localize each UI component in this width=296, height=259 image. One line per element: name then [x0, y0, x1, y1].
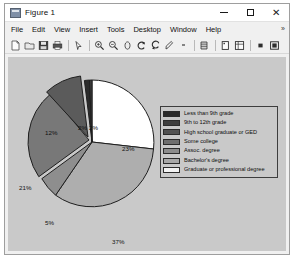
edit-plot-arrow-icon[interactable]: [72, 39, 85, 52]
chart-legend: Less than 9th grade 9th to 12th grade Hi…: [160, 106, 278, 178]
insert-colorbar-icon[interactable]: [198, 39, 211, 52]
legend-item: High school graduate or GED: [163, 128, 275, 137]
menu-item-view[interactable]: View: [54, 25, 70, 34]
window-controls: ✕: [211, 4, 289, 21]
legend-item: Assoc. degree: [163, 147, 275, 156]
pan-icon[interactable]: [121, 39, 134, 52]
legend-swatch-icon: [163, 129, 180, 135]
pie-label-37: 37%: [112, 238, 124, 245]
legend-item: Bachelor's degree: [163, 156, 275, 165]
menu-item-file[interactable]: File: [11, 25, 23, 34]
pie-label-2a: 2%: [78, 124, 87, 131]
show-plot-tools-icon[interactable]: [268, 39, 281, 52]
legend-swatch-icon: [163, 120, 180, 126]
close-button[interactable]: ✕: [263, 4, 289, 21]
minimize-button[interactable]: [211, 4, 237, 21]
new-figure-icon[interactable]: [9, 39, 22, 52]
legend-label: Assoc. degree: [184, 148, 220, 154]
pie-label-5: 5%: [45, 219, 54, 226]
pie-label-23: 23%: [122, 145, 134, 152]
maximize-button[interactable]: [237, 4, 263, 21]
legend-swatch-icon: [163, 167, 180, 173]
legend-label: 9th to 12th grade: [184, 120, 226, 126]
legend-label: Graduate or professional degree: [184, 167, 265, 173]
menu-overflow-icon[interactable]: »: [281, 25, 285, 32]
toolbar-separator: [192, 39, 197, 51]
legend-label: High school graduate or GED: [184, 130, 257, 136]
toolbar-separator: [66, 39, 71, 51]
print-figure-icon[interactable]: [51, 39, 64, 52]
open-file-icon[interactable]: [23, 39, 36, 52]
legend-item: 9th to 12th grade: [163, 118, 275, 127]
legend-label: Some college: [184, 139, 218, 145]
menu-item-help[interactable]: Help: [206, 25, 221, 34]
legend-item: Some college: [163, 137, 275, 146]
title-bar: Figure 1 ✕: [5, 4, 289, 22]
legend-label: Less than 9th grade: [184, 111, 233, 117]
hide-plot-tools-icon[interactable]: [254, 39, 267, 52]
data-cursor-icon[interactable]: [149, 39, 162, 52]
zoom-in-icon[interactable]: [93, 39, 106, 52]
menu-item-desktop[interactable]: Desktop: [133, 25, 161, 34]
rotate-3d-icon[interactable]: [135, 39, 148, 52]
menu-item-tools[interactable]: Tools: [107, 25, 125, 34]
legend-label: Bachelor's degree: [184, 158, 229, 164]
link-plot-dropdown-icon[interactable]: [177, 39, 190, 52]
pie-label-12: 12%: [45, 129, 57, 136]
menu-bar: File Edit View Insert Tools Desktop Wind…: [5, 22, 289, 37]
legend-item: Less than 9th grade: [163, 109, 275, 118]
legend-swatch-icon: [163, 139, 180, 145]
pie-slice-23: [92, 80, 154, 149]
brush-data-icon[interactable]: [163, 39, 176, 52]
matlab-figure-icon: [10, 8, 21, 18]
figure-window: Figure 1 ✕ File Edit View Insert Tools D…: [4, 3, 290, 255]
legend-swatch-icon: [163, 158, 180, 164]
plot-browser-icon[interactable]: [233, 39, 246, 52]
legend-swatch-icon: [163, 111, 180, 117]
legend-item: Graduate or professional degree: [163, 165, 275, 174]
menu-item-window[interactable]: Window: [170, 25, 197, 34]
toolbar-separator: [87, 39, 92, 51]
zoom-out-icon[interactable]: [107, 39, 120, 52]
toolbar: [5, 37, 289, 54]
axes-background: 2% 2% 23% 37% 5% 21% 12% Less than 9th g…: [8, 57, 286, 251]
pie-label-2b: 2%: [89, 124, 98, 131]
insert-legend-icon[interactable]: [219, 39, 232, 52]
legend-swatch-icon: [163, 148, 180, 154]
toolbar-separator: [248, 39, 253, 51]
save-figure-icon[interactable]: [37, 39, 50, 52]
menu-item-edit[interactable]: Edit: [32, 25, 45, 34]
menu-item-insert[interactable]: Insert: [79, 25, 98, 34]
pie-chart: [14, 67, 166, 217]
window-title: Figure 1: [25, 8, 55, 17]
pie-label-21: 21%: [19, 184, 31, 191]
figure-canvas-area: 2% 2% 23% 37% 5% 21% 12% Less than 9th g…: [5, 54, 289, 254]
toolbar-separator: [213, 39, 218, 51]
